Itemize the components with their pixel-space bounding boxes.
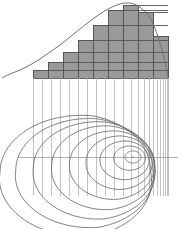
figure-container (0, 0, 182, 229)
histogram-bar (78, 40, 93, 78)
histogram-bar (63, 52, 78, 78)
histogram-bar (123, 5, 138, 78)
histogram-bar (108, 10, 123, 78)
histogram-bar (153, 36, 168, 78)
histogram-bar (138, 12, 153, 78)
histogram-bar (33, 70, 48, 78)
contour-center-point (132, 156, 133, 157)
density-contour-figure (0, 0, 182, 229)
